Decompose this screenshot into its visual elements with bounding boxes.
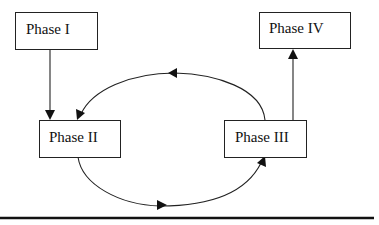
arrowhead-mid-phase3-to-phase2	[168, 68, 177, 78]
node-phase-3: Phase III	[225, 121, 307, 158]
arrowhead-phase3-to-phase2	[76, 109, 85, 120]
edge-phase3-to-phase2	[81, 73, 265, 120]
phase-cycle-diagram: Phase I Phase II Phase III Phase IV	[0, 0, 379, 225]
arrowhead-phase1-to-phase2	[45, 110, 55, 120]
node-phase-2: Phase II	[40, 121, 121, 158]
node-phase-4: Phase IV	[260, 13, 351, 49]
node-label: Phase I	[26, 21, 70, 37]
edge-phase2-to-phase3	[78, 157, 261, 206]
node-label: Phase II	[49, 129, 98, 145]
arrowhead-phase3-to-phase4	[288, 49, 298, 59]
node-phase-1: Phase I	[16, 13, 98, 50]
node-label: Phase IV	[269, 20, 324, 36]
node-label: Phase III	[235, 129, 289, 145]
arrowhead-mid-phase2-to-phase3	[157, 200, 167, 210]
